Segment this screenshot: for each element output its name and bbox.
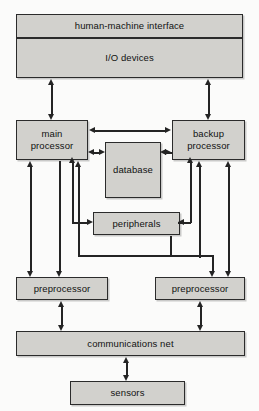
edge-comms-sensors xyxy=(126,362,128,375)
edge-peripherals-preproc-right-h xyxy=(170,255,213,257)
edge-peripherals-preproc-right-v2 xyxy=(212,255,214,271)
node-label-hmi: human-machine interface xyxy=(75,20,185,32)
node-io-devices[interactable]: I/O devices xyxy=(16,38,243,78)
node-sensors[interactable]: sensors xyxy=(70,381,185,405)
edge-arrow-main-backup-right xyxy=(165,127,171,133)
edge-arrow-preproc-left-comms-down xyxy=(58,325,64,331)
edge-arrow-backup-preproc-right-up xyxy=(225,161,231,167)
edge-arrow-preproc-left-comms-up xyxy=(58,301,64,307)
node-label-backup-processor-line2: processor xyxy=(187,140,230,152)
edge-arrow-comms-sensors-up xyxy=(123,357,129,363)
edge-preproc-main-cross xyxy=(78,166,80,256)
edge-main-preproc-left-inner xyxy=(59,161,61,271)
page-caption-text: … … … … … … xyxy=(36,0,105,2)
node-preprocessor-left[interactable]: preprocessor xyxy=(16,277,108,300)
node-preprocessor-right[interactable]: preprocessor xyxy=(155,277,245,300)
node-label-io-devices: I/O devices xyxy=(105,52,154,64)
edge-arrow-io-main-down xyxy=(48,114,54,120)
node-peripherals[interactable]: peripherals xyxy=(93,212,180,235)
node-human-machine-interface[interactable]: human-machine interface xyxy=(16,14,243,38)
edge-arrow-peripherals-preproc-right-down xyxy=(209,271,215,277)
edge-arrow-database-backup-right xyxy=(165,149,171,155)
edge-arrow-preproc-right-comms-up xyxy=(197,301,203,307)
edge-arrow-peripherals-in-left xyxy=(87,219,93,225)
edge-backup-preproc-right-outer xyxy=(228,166,230,271)
node-main-processor[interactable]: main processor xyxy=(16,120,88,160)
edge-arrow-io-main-up xyxy=(48,79,54,85)
node-communications-net[interactable]: communications net xyxy=(16,331,245,356)
edge-arrow-comms-sensors-down xyxy=(123,375,129,381)
edge-main-preproc-left-outer xyxy=(30,166,32,271)
edge-arrow-main-preproc-left-down xyxy=(27,271,33,277)
edge-peripherals-preproc-right-v1 xyxy=(170,236,172,256)
node-label-backup-processor-line1: backup xyxy=(193,128,224,140)
edge-arrow-main-preproc-left-inner-down xyxy=(56,271,62,277)
edge-arrow-main-database-right xyxy=(99,149,105,155)
diagram-canvas: … … … … … … human-machine interface I/O … xyxy=(0,0,259,411)
node-label-database: database xyxy=(113,164,153,176)
edge-io-main-processor xyxy=(51,85,53,115)
node-label-communications-net: communications net xyxy=(87,338,173,350)
node-label-sensors: sensors xyxy=(111,387,145,399)
edge-main-peripherals-horizontal xyxy=(72,222,87,224)
edge-preproc-left-comms xyxy=(61,306,63,325)
node-label-main-processor-line1: main xyxy=(42,128,63,140)
node-label-main-processor-line2: processor xyxy=(31,140,74,152)
edge-peripherals-backup-vertical xyxy=(190,161,192,223)
node-label-preprocessor-right: preprocessor xyxy=(172,283,229,295)
edge-main-peripherals-vertical xyxy=(72,161,74,223)
node-label-preprocessor-left: preprocessor xyxy=(34,283,91,295)
edge-arrow-main-preproc-left-up xyxy=(27,161,33,167)
edge-arrow-io-backup-up xyxy=(205,79,211,85)
edge-preproc-right-comms xyxy=(200,306,202,325)
edge-arrow-io-backup-down xyxy=(205,114,211,120)
edge-io-backup-processor xyxy=(208,85,210,115)
edge-arrow-preproc-main-cross-up xyxy=(75,161,81,167)
node-backup-processor[interactable]: backup processor xyxy=(172,120,245,160)
edge-main-backup-top xyxy=(95,130,165,132)
node-label-peripherals: peripherals xyxy=(112,218,160,230)
edge-arrow-preproc-right-comms-down xyxy=(197,325,203,331)
page-caption-strip: … … … … … … xyxy=(0,0,259,9)
node-database[interactable]: database xyxy=(105,142,161,198)
edge-arrow-backup-preproc-right-down xyxy=(225,271,231,277)
edge-arrow-main-database-left xyxy=(88,149,94,155)
edge-arrow-backup-preproc-right-inner-up xyxy=(196,161,202,167)
edge-arrow-peripherals-out-right xyxy=(187,157,193,163)
edge-backup-preproc-right-inner-v xyxy=(199,166,201,258)
edge-arrow-peripherals-in-right xyxy=(178,219,184,225)
edge-preproc-main-cross-h xyxy=(78,255,170,257)
edge-arrow-main-backup-left xyxy=(89,127,95,133)
